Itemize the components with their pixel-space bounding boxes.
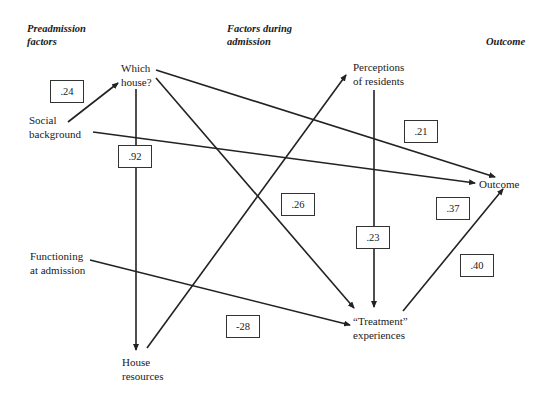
- header-preadmission-line2: factors: [27, 35, 86, 48]
- header-preadmission-line1: Preadmission: [27, 22, 86, 35]
- node-house-resources-line1: House: [122, 356, 164, 370]
- node-which-house: Which house?: [121, 62, 152, 89]
- coef-social-to-outcome: .37: [436, 197, 470, 220]
- edge-house-to-treatment: [156, 78, 354, 308]
- edge-functioning-to-treatment: [90, 260, 350, 325]
- node-treatment-line1: “Treatment”: [353, 315, 408, 329]
- node-functioning-line1: Functioning: [30, 250, 85, 264]
- node-house-resources-line2: resources: [122, 370, 164, 384]
- header-during-line2: admission: [227, 35, 292, 48]
- edge-house-to-outcome: [156, 70, 495, 177]
- coef-social-to-house: .24: [50, 80, 84, 103]
- coef-treatment-to-outcome: .40: [460, 254, 494, 277]
- node-treatment-line2: experiences: [353, 329, 408, 343]
- node-functioning-at-admission: Functioning at admission: [30, 250, 85, 277]
- node-outcome: Outcome: [479, 178, 519, 192]
- edge-resources-to-perceptions: [147, 75, 346, 348]
- coef-perceptions-to-treatment: .23: [356, 226, 390, 249]
- node-house-resources: House resources: [122, 356, 164, 383]
- coef-house-to-resources: .92: [118, 145, 152, 168]
- node-perceptions-line1: Perceptions: [353, 61, 404, 75]
- node-treatment-experiences: “Treatment” experiences: [353, 315, 408, 342]
- coef-functioning-to-treatment: -28: [226, 315, 260, 338]
- node-social-line2: background: [29, 128, 81, 142]
- node-which-house-line1: Which: [121, 62, 152, 76]
- header-preadmission-factors: Preadmission factors: [27, 22, 86, 48]
- header-factors-during-admission: Factors during admission: [227, 22, 292, 48]
- header-during-line1: Factors during: [227, 22, 292, 35]
- coef-house-to-outcome: .21: [404, 120, 438, 143]
- node-perceptions-line2: of residents: [353, 75, 404, 89]
- node-social-line1: Social: [29, 114, 81, 128]
- node-social-background: Social background: [29, 114, 81, 141]
- node-which-house-line2: house?: [121, 76, 152, 90]
- node-functioning-line2: at admission: [30, 264, 85, 278]
- header-outcome: Outcome: [486, 35, 525, 48]
- node-perceptions-of-residents: Perceptions of residents: [353, 61, 404, 88]
- coef-house-to-treatment: .26: [281, 193, 315, 216]
